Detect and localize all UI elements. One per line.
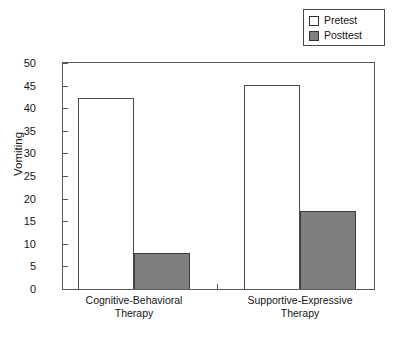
y-axis-tick-label: 45 <box>10 80 36 91</box>
x-axis-tick-mark <box>217 284 218 289</box>
legend-swatch-posttest-icon <box>309 31 319 41</box>
y-axis-tick-mark <box>63 131 68 132</box>
x-axis-group-label-line: Supportive-Expressive <box>210 294 390 307</box>
legend-entry-pretest: Pretest <box>309 13 380 28</box>
y-axis-tick-label: 25 <box>10 171 36 182</box>
y-axis-tick-label: 0 <box>10 284 36 295</box>
plot-frame: 05101520253035404550 <box>62 62 375 290</box>
bar-pretest-group-2 <box>244 85 300 289</box>
y-axis-tick-mark <box>63 176 68 177</box>
y-axis-tick-label: 30 <box>10 148 36 159</box>
y-axis-tick-label: 15 <box>10 216 36 227</box>
legend-label-posttest: Posttest <box>324 30 362 41</box>
y-axis-tick-mark <box>63 289 68 290</box>
chart-legend: Pretest Posttest <box>303 9 385 46</box>
y-axis-tick-label: 40 <box>10 103 36 114</box>
bar-posttest-group-1 <box>134 253 190 289</box>
legend-entry-posttest: Posttest <box>309 28 380 43</box>
y-axis-tick-label: 20 <box>10 193 36 204</box>
y-axis-tick-mark <box>63 86 68 87</box>
x-axis-group-label-2: Supportive-ExpressiveTherapy <box>210 294 390 320</box>
y-axis-tick-mark <box>63 199 68 200</box>
x-axis-group-label-1: Cognitive-BehavioralTherapy <box>44 294 224 320</box>
y-axis-tick-mark <box>63 244 68 245</box>
y-axis-tick-mark <box>63 221 68 222</box>
y-axis-tick-label: 10 <box>10 238 36 249</box>
x-axis-group-label-line: Therapy <box>210 307 390 320</box>
x-axis-group-label-line: Therapy <box>44 307 224 320</box>
y-axis-tick-mark <box>63 108 68 109</box>
y-axis-tick-label: 35 <box>10 125 36 136</box>
y-axis-tick-label: 5 <box>10 261 36 272</box>
y-axis-tick-mark <box>63 63 68 64</box>
legend-label-pretest: Pretest <box>324 15 357 26</box>
y-axis-tick-mark <box>63 266 68 267</box>
y-axis-tick-label: 50 <box>10 58 36 69</box>
plot-area: 05101520253035404550 <box>63 63 374 289</box>
bar-pretest-group-1 <box>78 98 134 289</box>
legend-swatch-pretest-icon <box>309 16 319 26</box>
x-axis-group-label-line: Cognitive-Behavioral <box>44 294 224 307</box>
y-axis-tick-mark <box>63 153 68 154</box>
bar-posttest-group-2 <box>300 211 356 289</box>
